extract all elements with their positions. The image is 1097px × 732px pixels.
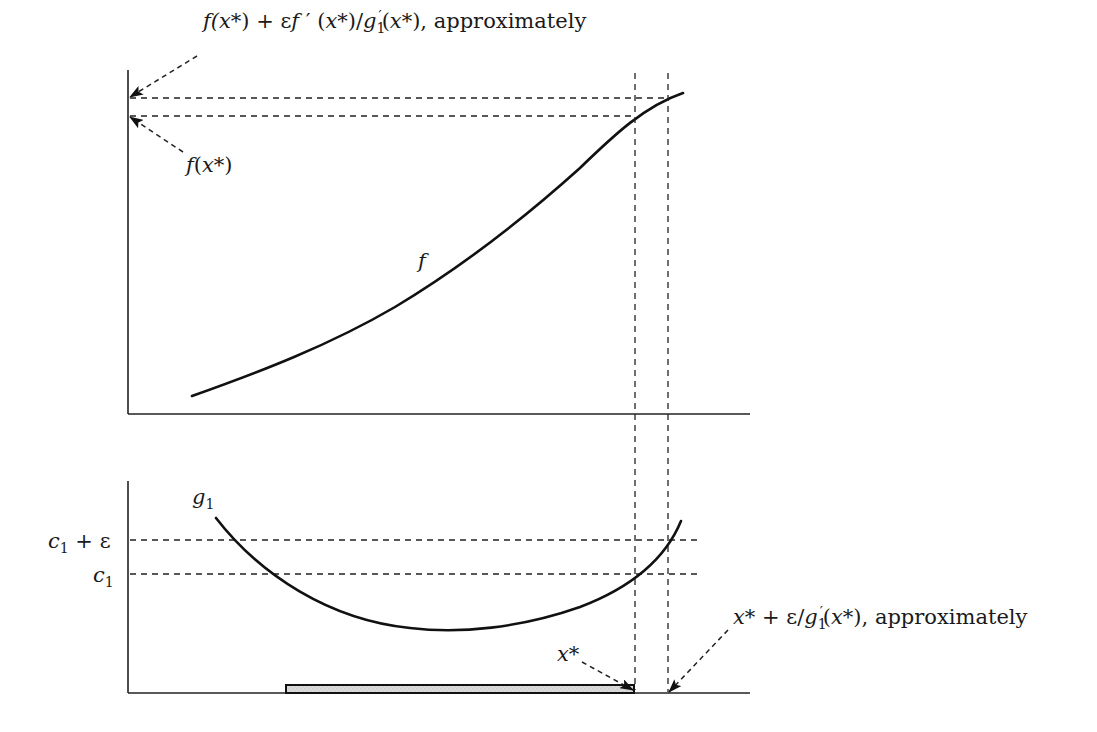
- annotation-f-approx: f(x*) + εf ′ (x*)/g1′(x*), approximately: [201, 8, 586, 36]
- f-curve-label: f: [416, 249, 429, 273]
- top-panel: f f(x*) + εf ′ (x*)/g1′(x*), approximate…: [128, 8, 750, 414]
- label-c1: c1: [93, 563, 114, 590]
- label-c1-plus-eps: c1 + ε: [48, 529, 111, 556]
- leader-arrow-f-xstar: [130, 117, 183, 152]
- annotation-f-xstar: f(x*): [184, 153, 233, 177]
- leader-arrow-f-approx: [130, 56, 197, 97]
- bottom-panel: g1 c1 + ε c1 x* x* + ε/g1′(x*), approxim…: [48, 481, 1028, 693]
- label-xstar: x*: [557, 642, 580, 666]
- annotation-xstar-approx: x* + ε/g1′(x*), approximately: [733, 604, 1028, 632]
- feasible-interval-bar: [286, 685, 634, 693]
- constraint-sensitivity-diagram: f f(x*) + εf ′ (x*)/g1′(x*), approximate…: [0, 0, 1097, 732]
- leader-arrow-xstar-approx: [669, 630, 728, 692]
- f-curve: [192, 93, 683, 396]
- g1-curve-label: g1: [192, 485, 214, 512]
